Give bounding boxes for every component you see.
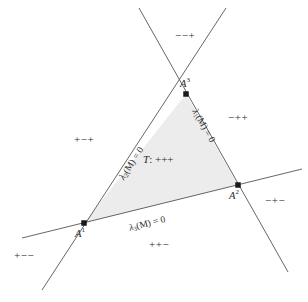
region-label-right-upper: −++ xyxy=(228,111,248,123)
vertex-marker-A2 xyxy=(235,182,241,188)
triangle-sign-region-figure: A1 A2 A3 λ1(M) = 0 λ2(M) = 0 λ3(M) = 0 T… xyxy=(0,0,308,302)
region-label-bottom: ++− xyxy=(149,238,169,250)
interior-label-T: T: +++ xyxy=(143,153,174,165)
region-label-top: −−+ xyxy=(175,29,195,41)
vertex-label-A1: A1 xyxy=(75,226,85,239)
vertex-label-A2: A2 xyxy=(229,188,239,201)
vertex-marker-A3 xyxy=(183,91,189,97)
region-label-right-lower: −+− xyxy=(265,194,285,206)
figure-canvas xyxy=(0,0,308,302)
region-label-bottom-left: +−− xyxy=(14,249,34,261)
vertex-marker-A1 xyxy=(81,220,87,226)
region-label-left: +−+ xyxy=(74,133,94,145)
vertex-label-A3: A3 xyxy=(180,76,190,89)
